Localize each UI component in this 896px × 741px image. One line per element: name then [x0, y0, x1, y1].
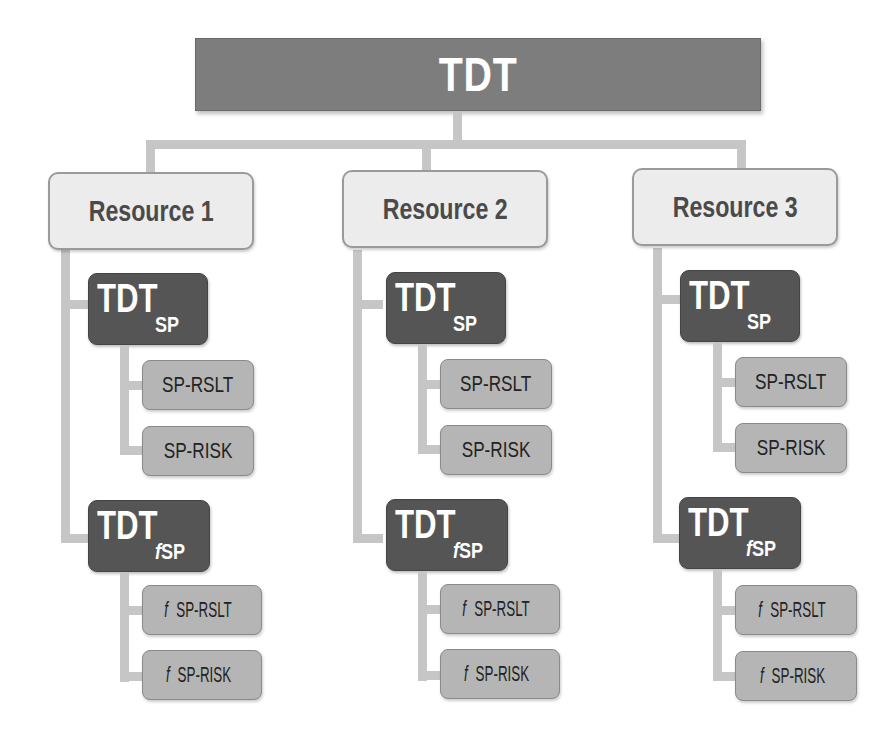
resource-node: Resource 1: [48, 172, 254, 250]
fsp-rslt-text: SP-RSLT: [177, 597, 233, 623]
fsp-risk-node: fSP-RISK: [440, 649, 560, 699]
fsp-rslt-label: fSP-RSLT: [164, 597, 240, 623]
branch-to-tdt-sp: [61, 300, 91, 309]
fsp-rslt-label: fSP-RSLT: [462, 596, 538, 622]
sp-risk-label: SP-RISK: [164, 438, 233, 464]
italic-f: f: [464, 661, 468, 687]
resource-column-3: Resource 3 TDT SP SP-RSLT SP-RISK TDT fS…: [582, 0, 896, 741]
resource-column-2: Resource 2 TDT SP SP-RSLT SP-RISK TDT fS…: [292, 0, 592, 741]
fsp-risk-label: fSP-RISK: [759, 663, 832, 689]
sp-risk-node: SP-RISK: [142, 426, 254, 476]
sp-rslt-label: SP-RSLT: [162, 372, 233, 398]
tdt-sp-node: TDT SP: [88, 273, 208, 345]
fsp-children-spine: [713, 569, 722, 681]
sp-risk-label: SP-RISK: [757, 435, 826, 461]
branch-to-tdt-fsp: [61, 534, 91, 543]
tdt-fsp-sub-text: SP: [752, 536, 776, 561]
sp-children-spine: [418, 344, 427, 454]
branch-to-fsp-rslt: [120, 606, 144, 615]
branch-to-fsp-rslt: [418, 605, 442, 614]
branch-to-tdt-sp: [353, 300, 383, 309]
fsp-children-spine: [418, 571, 427, 681]
fsp-risk-label: fSP-RISK: [463, 661, 536, 687]
tdt-fsp-subscript: fSP: [746, 536, 776, 562]
sp-children-spine: [120, 345, 129, 455]
fsp-rslt-text: SP-RSLT: [771, 597, 827, 623]
branch-to-sp-risk: [418, 445, 442, 454]
tdt-fsp-subscript: fSP: [453, 538, 483, 564]
sp-rslt-label: SP-RSLT: [755, 369, 826, 395]
italic-f: f: [463, 596, 467, 622]
branch-to-sp-rslt: [418, 380, 442, 389]
fsp-rslt-node: fSP-RSLT: [440, 584, 560, 634]
sp-children-spine: [713, 342, 722, 452]
italic-f: f: [759, 597, 763, 623]
resource-spine: [61, 250, 70, 543]
resource-label: Resource 1: [88, 195, 213, 228]
branch-to-sp-risk: [713, 443, 737, 452]
tdt-fsp-node: TDT fSP: [88, 500, 210, 572]
italic-f: f: [760, 663, 764, 689]
branch-to-tdt-sp: [653, 295, 683, 304]
branch-to-fsp-rslt: [713, 606, 737, 615]
resource-node: Resource 2: [342, 170, 548, 248]
tdt-sp-node: TDT SP: [386, 272, 506, 344]
resource-column-1: Resource 1 TDT SP SP-RSLT SP-RISK TDT fS…: [0, 0, 300, 741]
tdt-sp-subscript: SP: [747, 309, 771, 335]
branch-to-sp-rslt: [713, 378, 737, 387]
resource-label: Resource 2: [382, 193, 507, 226]
branch-to-fsp-risk: [120, 672, 144, 681]
tdt-sp-node: TDT SP: [680, 270, 800, 342]
fsp-rslt-label: fSP-RSLT: [758, 597, 834, 623]
tdt-sp-main: TDT: [97, 276, 158, 321]
fsp-risk-text: SP-RISK: [476, 661, 530, 687]
tdt-fsp-node: TDT fSP: [679, 497, 801, 569]
fsp-risk-text: SP-RISK: [178, 662, 232, 688]
resource-label: Resource 3: [672, 191, 797, 224]
fsp-rslt-text: SP-RSLT: [475, 596, 531, 622]
tdt-fsp-sub-text: SP: [161, 539, 185, 564]
branch-to-sp-rslt: [120, 381, 144, 390]
italic-f: f: [165, 597, 169, 623]
fsp-risk-label: fSP-RISK: [165, 662, 238, 688]
fsp-risk-node: fSP-RISK: [735, 651, 857, 701]
tdt-fsp-main: TDT: [97, 503, 158, 548]
sp-rslt-node: SP-RSLT: [440, 359, 552, 409]
resource-spine: [653, 248, 662, 543]
tdt-sp-main: TDT: [689, 273, 750, 318]
sp-risk-node: SP-RISK: [440, 425, 552, 475]
tdt-fsp-subscript: fSP: [155, 539, 185, 565]
italic-f: f: [166, 662, 170, 688]
fsp-children-spine: [120, 572, 129, 682]
tdt-fsp-node: TDT fSP: [386, 499, 508, 571]
sp-risk-label: SP-RISK: [462, 437, 531, 463]
branch-to-fsp-risk: [418, 671, 442, 680]
tdt-sp-subscript: SP: [453, 311, 477, 337]
fsp-risk-text: SP-RISK: [772, 663, 826, 689]
tdt-fsp-sub-text: SP: [459, 538, 483, 563]
branch-to-fsp-risk: [713, 672, 737, 681]
sp-risk-node: SP-RISK: [735, 423, 847, 473]
tdt-sp-subscript: SP: [155, 312, 179, 338]
fsp-rslt-node: fSP-RSLT: [735, 585, 857, 635]
sp-rslt-label: SP-RSLT: [460, 371, 531, 397]
fsp-risk-node: fSP-RISK: [142, 650, 262, 700]
sp-rslt-node: SP-RSLT: [142, 360, 254, 410]
tdt-sp-main: TDT: [395, 275, 456, 320]
resource-spine: [353, 250, 362, 543]
branch-to-sp-risk: [120, 446, 144, 455]
resource-node: Resource 3: [632, 168, 838, 246]
branch-to-tdt-fsp: [353, 534, 383, 543]
tdt-fsp-main: TDT: [688, 500, 749, 545]
tdt-fsp-main: TDT: [395, 502, 456, 547]
fsp-rslt-node: fSP-RSLT: [142, 585, 262, 635]
sp-rslt-node: SP-RSLT: [735, 357, 847, 407]
